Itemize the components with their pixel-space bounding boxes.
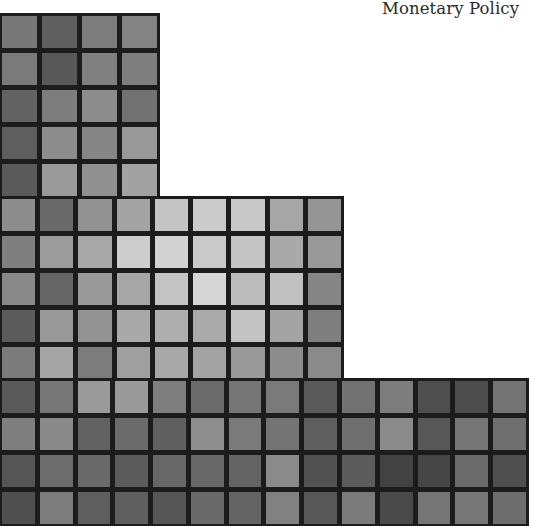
grid-square (122, 16, 157, 48)
grid-square (266, 381, 299, 413)
grid-square (418, 418, 451, 450)
grid-square (455, 418, 488, 450)
grid-square (2, 381, 35, 413)
grid-square (193, 273, 226, 305)
middle-block (0, 196, 344, 383)
grid-square (266, 455, 299, 487)
grid-square (117, 273, 150, 305)
grid-square (191, 492, 224, 524)
grid-square (455, 455, 488, 487)
grid-square (122, 53, 157, 85)
grid-square (78, 347, 111, 379)
grid-square (229, 381, 262, 413)
cover-title: Monetary Policy (382, 0, 519, 18)
grid-square (493, 455, 526, 487)
grid-square (191, 455, 224, 487)
grid-square (2, 273, 35, 305)
grid-square (229, 492, 262, 524)
grid-square (304, 455, 337, 487)
grid-square (122, 164, 157, 196)
grid-square (380, 381, 413, 413)
grid-square (42, 127, 77, 159)
grid-square (40, 347, 73, 379)
grid-square (153, 418, 186, 450)
grid-square (117, 310, 150, 342)
grid-square (191, 381, 224, 413)
grid-square (42, 164, 77, 196)
grid-square (455, 492, 488, 524)
grid-square (40, 492, 73, 524)
grid-square (117, 199, 150, 231)
grid-square (308, 236, 341, 268)
grid-square (40, 273, 73, 305)
grid-square (122, 90, 157, 122)
grid-square (115, 418, 148, 450)
grid-square (155, 310, 188, 342)
grid-square (308, 347, 341, 379)
grid-square (40, 381, 73, 413)
grid-square (304, 381, 337, 413)
grid-square (2, 164, 37, 196)
grid-square (2, 455, 35, 487)
grid-square (380, 455, 413, 487)
grid-square (418, 492, 451, 524)
grid-square (231, 236, 264, 268)
grid-square (2, 236, 35, 268)
grid-square (153, 455, 186, 487)
grid-square (40, 418, 73, 450)
grid-square (115, 455, 148, 487)
bottom-block (0, 378, 529, 526)
grid-square (231, 347, 264, 379)
grid-square (266, 492, 299, 524)
grid-square (153, 492, 186, 524)
grid-square (78, 236, 111, 268)
grid-square (40, 455, 73, 487)
grid-square (78, 273, 111, 305)
grid-square (40, 236, 73, 268)
grid-square (82, 90, 117, 122)
grid-square (82, 53, 117, 85)
grid-square (342, 455, 375, 487)
grid-square (2, 199, 35, 231)
grid-square (78, 455, 111, 487)
grid-square (82, 164, 117, 196)
grid-square (270, 347, 303, 379)
grid-square (2, 310, 35, 342)
grid-square (2, 418, 35, 450)
grid-square (78, 418, 111, 450)
grid-square (82, 16, 117, 48)
grid-square (155, 347, 188, 379)
grid-square (40, 199, 73, 231)
grid-square (308, 310, 341, 342)
grid-square (380, 492, 413, 524)
grid-square (78, 492, 111, 524)
grid-square (2, 347, 35, 379)
grid-square (40, 310, 73, 342)
grid-square (493, 492, 526, 524)
grid-square (270, 273, 303, 305)
grid-square (342, 418, 375, 450)
grid-square (266, 418, 299, 450)
grid-square (229, 455, 262, 487)
grid-square (231, 199, 264, 231)
grid-square (342, 381, 375, 413)
grid-square (231, 310, 264, 342)
grid-square (115, 492, 148, 524)
grid-square (270, 310, 303, 342)
grid-square (270, 236, 303, 268)
grid-square (78, 381, 111, 413)
top-block (0, 13, 160, 201)
grid-square (122, 127, 157, 159)
grid-square (304, 418, 337, 450)
grid-square (2, 90, 37, 122)
grid-square (82, 127, 117, 159)
grid-square (2, 492, 35, 524)
grid-square (42, 90, 77, 122)
grid-square (153, 381, 186, 413)
grid-square (155, 236, 188, 268)
grid-square (78, 310, 111, 342)
grid-square (229, 418, 262, 450)
grid-square (493, 381, 526, 413)
grid-square (2, 53, 37, 85)
grid-square (493, 418, 526, 450)
